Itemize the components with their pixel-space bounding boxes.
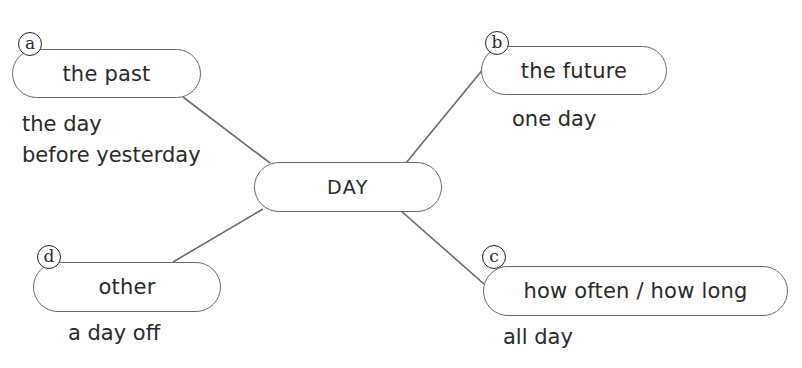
branch-label-other: other [99,275,156,299]
badge-b-letter: b [492,34,503,51]
example-past-2: before yesterday [22,140,201,170]
example-past-1: the day [22,109,102,139]
center-node-label: DAY [327,176,369,198]
badge-a-letter: a [25,35,35,52]
branch-node-other: other [33,262,221,312]
badge-c: c [482,245,506,269]
connector-d [173,209,263,262]
branch-label-frequency: how often / how long [523,279,747,303]
center-node: DAY [254,162,442,212]
branch-label-past: the past [62,62,150,86]
connector-c [400,210,484,284]
branch-label-future: the future [521,59,627,83]
branch-node-future: the future [481,46,667,95]
example-other-1: a day off [68,318,160,348]
branch-node-past: the past [12,49,201,98]
badge-d: d [37,245,61,269]
badge-b: b [485,31,509,55]
example-future-1: one day [512,104,596,134]
example-frequency-1: all day [503,322,573,352]
connector-b [406,68,484,163]
badge-c-letter: c [489,248,499,265]
badge-a: a [18,32,42,56]
mind-map-diagram: DAY the past a the day before yesterday … [0,0,802,368]
branch-node-frequency: how often / how long [483,266,788,316]
badge-d-letter: d [44,248,55,265]
